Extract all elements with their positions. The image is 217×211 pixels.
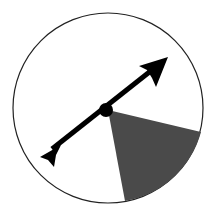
spinner-hub — [99, 103, 113, 117]
spinner-diagram — [0, 0, 217, 211]
